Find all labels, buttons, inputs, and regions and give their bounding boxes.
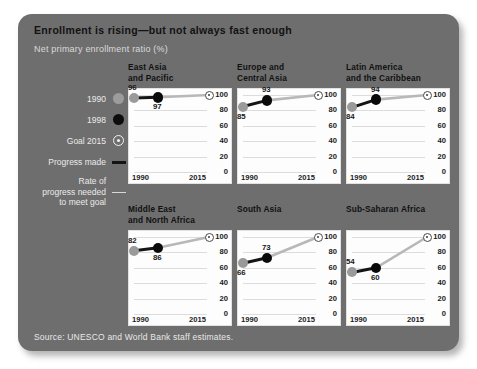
panel-title: Sub-Saharan Africa <box>346 204 425 215</box>
marker-1998 <box>153 92 164 103</box>
chart-panel: Middle Eastand North Africa1008060402001… <box>128 204 232 334</box>
chart-panel: Sub-Saharan Africa1008060402001990201554… <box>346 204 450 334</box>
plot-area: 100806040200199020156673 <box>237 230 341 326</box>
plot-area: 100806040200199020159697 <box>128 88 232 184</box>
gray-filled-circle-icon <box>112 92 126 106</box>
legend-item-1990: 1990 <box>22 92 126 106</box>
value-label-1998: 86 <box>153 253 162 262</box>
panel-title: Latin Americaand the Caribbean <box>346 62 421 83</box>
plot-area: 100806040200199020158494 <box>346 88 450 184</box>
trend-lines <box>238 89 340 183</box>
panel-title: East Asiaand Pacific <box>128 62 173 83</box>
legend-label-rate-needed: Rate of progress needed to meet goal <box>42 176 106 208</box>
legend: 1990 1998 Goal 2015 Progress made Rate o… <box>22 92 126 215</box>
panel-title: Europe andCentral Asia <box>237 62 287 83</box>
chart-panel: Latin Americaand the Caribbean1008060402… <box>346 62 450 192</box>
plot-area: 100806040200199020155460 <box>346 230 450 326</box>
marker-1998 <box>371 94 382 105</box>
legend-label-rate-needed-line3: to meet goal <box>59 197 106 207</box>
value-label-1990: 85 <box>237 112 246 121</box>
value-label-1998: 97 <box>153 102 162 111</box>
legend-label-rate-needed-line1: Rate of <box>79 176 106 186</box>
value-label-1990: 84 <box>346 112 355 121</box>
page-title: Enrollment is rising—but not always fast… <box>34 24 292 36</box>
marker-goal-2015 <box>423 233 432 242</box>
thin-light-line-icon <box>112 185 126 199</box>
thick-dark-line-icon <box>112 155 126 169</box>
marker-1998 <box>262 95 273 106</box>
legend-item-progress-made: Progress made <box>22 155 126 169</box>
marker-goal-2015 <box>205 233 214 242</box>
value-label-1990: 54 <box>346 257 355 266</box>
marker-1990 <box>129 246 139 256</box>
trend-lines <box>347 89 449 183</box>
legend-label-progress-made: Progress made <box>48 157 106 168</box>
trend-lines <box>347 231 449 325</box>
legend-label-1998: 1998 <box>87 115 106 126</box>
marker-goal-2015 <box>205 91 214 100</box>
plot-area: 100806040200199020158593 <box>237 88 341 184</box>
value-label-1990: 96 <box>128 83 137 92</box>
legend-item-goal-2015: Goal 2015 <box>22 134 126 148</box>
legend-label-goal-2015: Goal 2015 <box>67 136 106 147</box>
trend-lines <box>129 231 231 325</box>
legend-label-rate-needed-line2: progress needed <box>42 187 106 197</box>
chart-panel: South Asia100806040200199020156673 <box>237 204 341 334</box>
value-label-1998: 93 <box>262 85 271 94</box>
chart-panel: Europe andCentral Asia100806040200199020… <box>237 62 341 192</box>
marker-goal-2015 <box>314 233 323 242</box>
source-note: Source: UNESCO and World Bank staff esti… <box>34 332 233 342</box>
value-label-1998: 73 <box>262 243 271 252</box>
black-filled-circle-icon <box>112 113 126 127</box>
trend-lines <box>238 231 340 325</box>
trend-lines <box>129 89 231 183</box>
target-circle-icon <box>112 134 126 148</box>
value-label-1990: 66 <box>237 268 246 277</box>
marker-goal-2015 <box>423 91 432 100</box>
infographic-card: Enrollment is rising—but not always fast… <box>18 14 459 351</box>
chart-subtitle: Net primary enrollment ratio (%) <box>34 44 168 54</box>
plot-area: 100806040200199020158286 <box>128 230 232 326</box>
chart-panel: East Asiaand Pacific10080604020019902015… <box>128 62 232 192</box>
marker-1990 <box>238 102 248 112</box>
panel-title: Middle Eastand North Africa <box>128 204 195 225</box>
legend-item-1998: 1998 <box>22 113 126 127</box>
chart-panel-grid: East Asiaand Pacific10080604020019902015… <box>128 62 450 334</box>
value-label-1998: 60 <box>371 273 380 282</box>
panel-title: South Asia <box>237 204 282 215</box>
legend-label-1990: 1990 <box>87 94 106 105</box>
legend-item-rate-needed: Rate of progress needed to meet goal <box>22 176 126 208</box>
value-label-1990: 82 <box>128 236 137 245</box>
marker-goal-2015 <box>314 91 323 100</box>
value-label-1998: 94 <box>371 85 380 94</box>
